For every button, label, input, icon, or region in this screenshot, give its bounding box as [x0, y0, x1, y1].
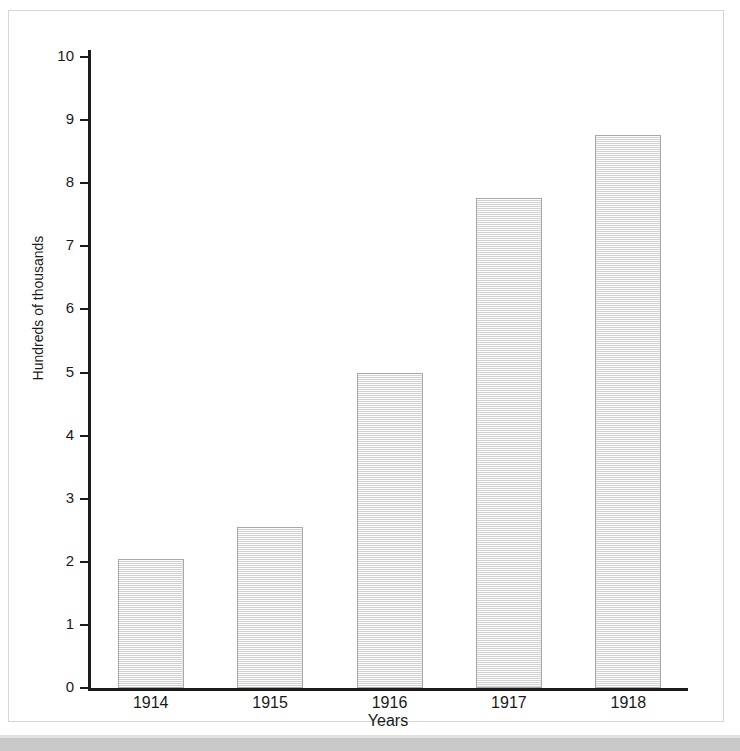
- y-tick-label-text: 5: [48, 364, 74, 379]
- y-tick-label-text: 10: [48, 48, 74, 63]
- y-tick-label: 6: [44, 300, 74, 316]
- y-tick-label-text: 4: [48, 427, 74, 442]
- y-tick-label: 7: [44, 237, 74, 253]
- y-tick-mark: [80, 182, 89, 184]
- x-tick-label: 1916: [330, 694, 450, 712]
- y-tick-label: 2: [44, 553, 74, 569]
- y-tick-label-text: 1: [48, 616, 74, 631]
- x-tick-label: 1914: [91, 694, 211, 712]
- y-tick-mark: [80, 498, 89, 500]
- y-tick-label-text: 3: [48, 490, 74, 505]
- y-tick-mark: [80, 687, 89, 689]
- y-tick-label-text: 8: [48, 174, 74, 189]
- y-tick-mark: [80, 56, 89, 58]
- bar: [118, 559, 184, 688]
- y-tick-label-text: 7: [48, 237, 74, 252]
- bar: [237, 527, 303, 688]
- x-axis-title: Years: [88, 712, 688, 730]
- bar-chart: 012345678910 19141915191619171918 Hundre…: [0, 0, 740, 751]
- y-tick-label-text: 2: [48, 553, 74, 568]
- y-tick-label: 8: [44, 174, 74, 190]
- chart-page: 012345678910 19141915191619171918 Hundre…: [0, 0, 740, 751]
- y-tick-mark: [80, 372, 89, 374]
- y-axis-title: Hundreds of thousands: [30, 208, 46, 408]
- y-tick-label: 9: [44, 111, 74, 127]
- bar: [357, 373, 423, 689]
- y-tick-label-text: 6: [48, 300, 74, 315]
- bar: [476, 198, 542, 688]
- y-tick-label-text: 9: [48, 111, 74, 126]
- y-tick-label: 5: [44, 364, 74, 380]
- y-tick-mark: [80, 308, 89, 310]
- y-tick-label: 0: [44, 679, 74, 695]
- y-tick-mark: [80, 435, 89, 437]
- y-tick-mark: [80, 561, 89, 563]
- y-tick-label: 4: [44, 427, 74, 443]
- x-axis-line: [88, 688, 688, 691]
- page-edge-band: [0, 738, 740, 751]
- y-axis-line: [88, 50, 91, 690]
- bar: [595, 135, 661, 688]
- y-tick-label: 3: [44, 490, 74, 506]
- y-tick-label: 1: [44, 616, 74, 632]
- y-tick-label: 10: [44, 48, 74, 64]
- x-tick-label: 1915: [210, 694, 330, 712]
- y-tick-mark: [80, 119, 89, 121]
- y-tick-mark: [80, 245, 89, 247]
- x-tick-label: 1917: [449, 694, 569, 712]
- y-tick-mark: [80, 624, 89, 626]
- y-tick-label-text: 0: [48, 679, 74, 694]
- x-tick-label: 1918: [568, 694, 688, 712]
